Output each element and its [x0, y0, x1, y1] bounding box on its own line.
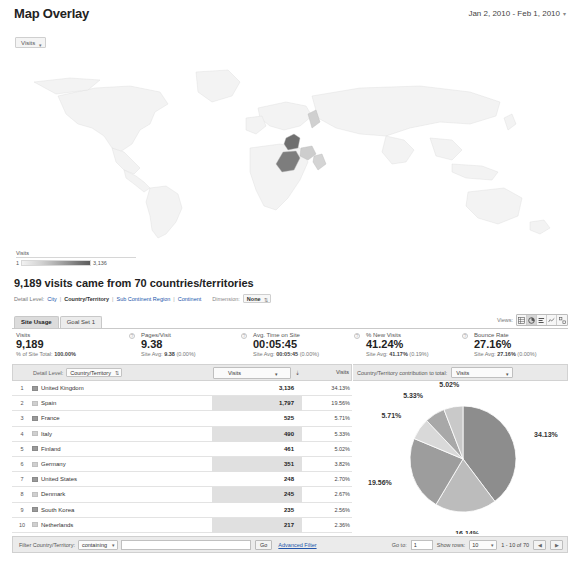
detail-level-city[interactable]: City — [47, 296, 56, 302]
pie-chart-svg: 34.13%16.14%19.56%5.71%5.33%5.02% — [353, 381, 568, 534]
row-percent: 5.71% — [308, 411, 350, 426]
detail-level-sub-continent-region[interactable]: Sub Continent Region — [116, 296, 170, 302]
next-page-button[interactable]: ▶ — [550, 540, 563, 550]
table-row[interactable]: 3 France 525 5.71% — [12, 411, 352, 426]
table-view-button[interactable] — [517, 315, 527, 325]
pagination: Go to: Show rows: 10 ▾ 1 - 10 of 70 ◀ ▶ — [392, 537, 563, 552]
chevron-down-icon: ▾ — [112, 541, 115, 550]
row-country[interactable]: Spain — [41, 400, 352, 406]
row-rank: 6 — [12, 461, 32, 467]
pie-view-button[interactable] — [527, 315, 537, 325]
pie-slice-label: 34.13% — [534, 431, 559, 438]
pie-slices — [410, 406, 516, 512]
row-visits: 248 — [212, 472, 302, 487]
filter-condition-select[interactable]: containing ▾ — [78, 540, 118, 550]
row-visits: 245 — [212, 487, 302, 502]
table-detail-level-select[interactable]: Country/Territory ⇅ — [66, 368, 122, 377]
metric-value: 9,189 — [16, 338, 137, 351]
row-country[interactable]: Denmark — [41, 491, 352, 497]
help-icon[interactable]: ? — [462, 333, 468, 339]
show-rows-select[interactable]: 10 ▾ — [469, 540, 497, 550]
goto-input[interactable] — [411, 540, 433, 550]
row-country[interactable]: Finland — [41, 446, 352, 452]
table-row[interactable]: 10 Netherlands 217 2.36% — [12, 518, 352, 533]
dimension-select[interactable]: None ⇅ — [243, 294, 271, 303]
help-icon[interactable]: ? — [241, 333, 247, 339]
advanced-filter-link[interactable]: Advanced Filter — [278, 542, 316, 548]
row-country[interactable]: United States — [41, 476, 352, 482]
bar-view-button[interactable] — [537, 315, 547, 325]
row-rank: 5 — [12, 446, 32, 452]
row-country[interactable]: Italy — [41, 431, 352, 437]
pie-slice-label: 5.71% — [381, 412, 402, 419]
table-row[interactable]: 9 South Korea 235 2.56% — [12, 503, 352, 518]
chevron-down-icon: ▾ — [563, 11, 566, 17]
dimension-value: None — [247, 296, 261, 302]
map-legend-min: 1 — [16, 260, 19, 266]
help-icon[interactable]: ? — [354, 333, 360, 339]
tab-divider — [12, 328, 568, 329]
detail-level-continent[interactable]: Continent — [178, 296, 202, 302]
row-country[interactable]: France — [41, 415, 352, 421]
prev-page-button[interactable]: ◀ — [533, 540, 546, 550]
table-row[interactable]: 6 Germany 351 3.82% — [12, 457, 352, 472]
table-row[interactable]: 1 United Kingdom 3,136 34.13% — [12, 381, 352, 396]
map-region-italy — [313, 154, 326, 170]
date-range-selector[interactable]: Jan 2, 2010 - Feb 1, 2010▾ — [468, 9, 566, 18]
show-rows-value: 10 — [472, 542, 478, 548]
chevron-down-icon: ▾ — [491, 541, 494, 550]
row-visits: 217 — [212, 518, 302, 533]
table-row[interactable]: 5 Finland 461 5.02% — [12, 442, 352, 457]
pivot-view-button[interactable] — [557, 315, 567, 325]
table-column-visits[interactable]: Visits — [313, 369, 349, 375]
pie-slice-label: 5.33% — [403, 392, 424, 399]
table-row[interactable]: 8 Denmark 245 2.67% — [12, 487, 352, 502]
table-row[interactable]: 7 United States 248 2.70% — [12, 472, 352, 487]
row-percent: 2.70% — [308, 472, 350, 487]
flag-icon — [32, 477, 38, 482]
metric-pages-visit: ? Pages/Visit 9.38 Site Avg: 9.38 (0.00%… — [137, 332, 249, 360]
world-map-svg — [0, 52, 580, 248]
row-rank: 1 — [12, 385, 32, 391]
table-metric-select[interactable]: Visits ▾ — [213, 367, 291, 379]
world-map[interactable] — [0, 52, 580, 248]
chevron-updown-icon: ⇅ — [115, 369, 119, 377]
sort-descending-icon[interactable]: ⇣ — [295, 369, 300, 376]
table-body: 1 United Kingdom 3,136 34.13% 2 Spain 1,… — [12, 381, 352, 533]
pie-slice-label: 19.56% — [368, 479, 393, 486]
tab-goal-set-1[interactable]: Goal Set 1 — [60, 316, 102, 328]
flag-icon — [32, 386, 38, 391]
row-country[interactable]: Germany — [41, 461, 352, 467]
go-button[interactable]: Go — [255, 540, 272, 550]
row-visits: 235 — [212, 503, 302, 518]
metric-sub-suffix: (0.00%) — [517, 351, 536, 357]
metric-value: 27.16% — [474, 338, 568, 351]
summary-headline: 9,189 visits came from 70 countries/terr… — [14, 277, 254, 289]
flag-icon — [32, 401, 38, 406]
row-country[interactable]: South Korea — [41, 507, 352, 513]
row-country[interactable]: United Kingdom — [41, 385, 352, 391]
comparison-view-button[interactable] — [547, 315, 557, 325]
table-row[interactable]: 4 Italy 490 5.33% — [12, 427, 352, 442]
flag-icon — [32, 462, 38, 467]
metric-summary-strip: Visits 9,189 % of Site Total: 100.00% ? … — [12, 332, 568, 360]
page-title: Map Overlay — [14, 6, 89, 21]
pie-chart[interactable]: 34.13%16.14%19.56%5.71%5.33%5.02% — [353, 381, 568, 534]
table-row[interactable]: 2 Spain 1,797 19.56% — [12, 396, 352, 411]
detail-level-country-territory[interactable]: Country/Territory — [64, 296, 109, 302]
metric-sub-value: 00:05:45 — [276, 351, 298, 357]
row-country[interactable]: Netherlands — [41, 522, 352, 528]
goto-label: Go to: — [392, 542, 407, 548]
flag-icon — [32, 492, 38, 497]
help-icon[interactable]: ? — [129, 333, 135, 339]
map-metric-select[interactable]: Visits ▾ — [15, 37, 46, 48]
metric-sub-value: 41.17% — [389, 351, 408, 357]
chevron-down-icon: ▾ — [506, 369, 509, 379]
filter-input[interactable] — [121, 540, 251, 550]
filter-label: Filter Country/Territory: — [19, 542, 75, 548]
pie-metric-select[interactable]: Visits ▾ — [451, 367, 513, 378]
chevron-down-icon: ⇅ — [264, 296, 268, 304]
row-rank: 3 — [12, 415, 32, 421]
tab-site-usage[interactable]: Site Usage — [14, 316, 59, 328]
metric-sub-suffix: (0.19%) — [409, 351, 428, 357]
